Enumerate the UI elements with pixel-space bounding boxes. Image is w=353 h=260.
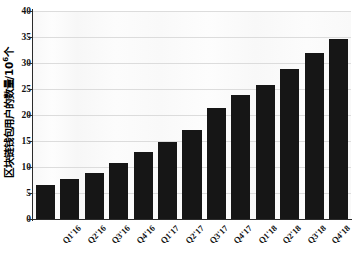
- y-axis-title-unit: 个: [3, 47, 15, 57]
- x-axis-tick-label: Q3'16: [110, 223, 133, 246]
- y-axis-tick-mark: [28, 219, 33, 220]
- y-axis-title-exponent: 6: [2, 57, 10, 62]
- bar: [231, 95, 250, 219]
- x-axis-tick-label: Q2'16: [85, 223, 108, 246]
- bar: [60, 179, 79, 219]
- x-axis-tick-label: Q1'17: [158, 223, 181, 246]
- x-axis-tick-labels: Q1'16Q2'16Q3'16Q4'16Q1'17Q2'17Q3'17Q4'17…: [33, 221, 351, 260]
- bar: [329, 39, 348, 219]
- bar: [134, 152, 153, 219]
- bar: [182, 130, 201, 219]
- x-axis-tick-label: Q2'18: [281, 223, 304, 246]
- x-axis-tick-label: Q1'18: [256, 223, 279, 246]
- bar-series: [33, 11, 351, 219]
- x-axis-tick-label: Q4'18: [330, 223, 353, 246]
- bar: [109, 163, 128, 219]
- x-axis-tick-label: Q4'16: [134, 223, 157, 246]
- x-axis-tick-label: Q2'17: [183, 223, 206, 246]
- y-axis-tick-labels: 0510152025303540: [14, 0, 31, 260]
- bar: [158, 142, 177, 219]
- bar: [256, 85, 275, 219]
- x-axis-tick-label: Q1'16: [61, 223, 84, 246]
- bar-chart-figure: 区块链钱包用户的数量/106个 0510152025303540 Q1'16Q2…: [0, 0, 353, 260]
- bar: [280, 69, 299, 219]
- x-axis-tick-label: Q4'17: [232, 223, 255, 246]
- x-axis-tick-label: Q3'18: [305, 223, 328, 246]
- bar: [85, 173, 104, 219]
- plot-area: [33, 11, 351, 219]
- bar: [207, 108, 226, 219]
- y-axis-title-text: 区块链钱包用户的数量/10: [3, 62, 15, 178]
- bar: [36, 185, 55, 219]
- x-axis-tick-label: Q3'17: [207, 223, 230, 246]
- bar: [305, 53, 324, 219]
